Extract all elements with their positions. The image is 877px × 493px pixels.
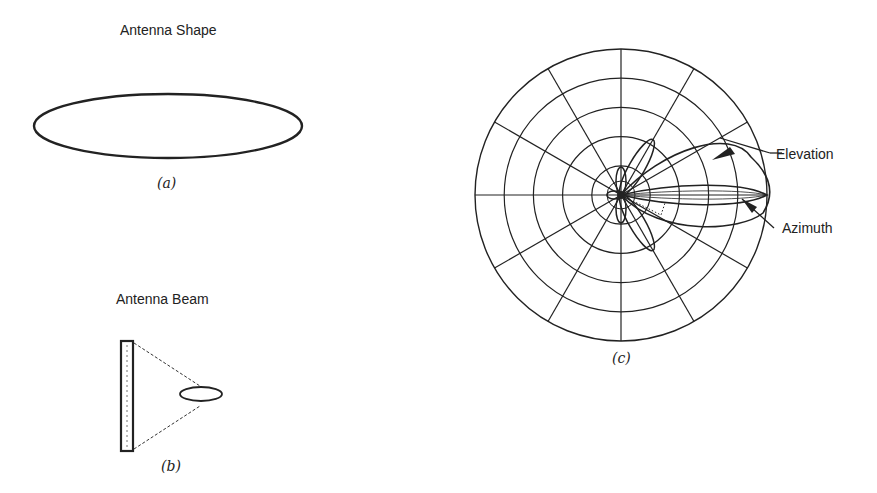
antenna-shape-ellipse [34, 94, 302, 158]
beam-edge-top [134, 343, 200, 386]
pattern-origin [617, 191, 625, 199]
antenna-beam-figure [121, 341, 222, 451]
beam-edge-bottom [134, 406, 200, 449]
beam-footprint-ellipse [180, 387, 222, 401]
diagram-canvas [0, 0, 877, 493]
polar-radiation-pattern [475, 49, 782, 341]
